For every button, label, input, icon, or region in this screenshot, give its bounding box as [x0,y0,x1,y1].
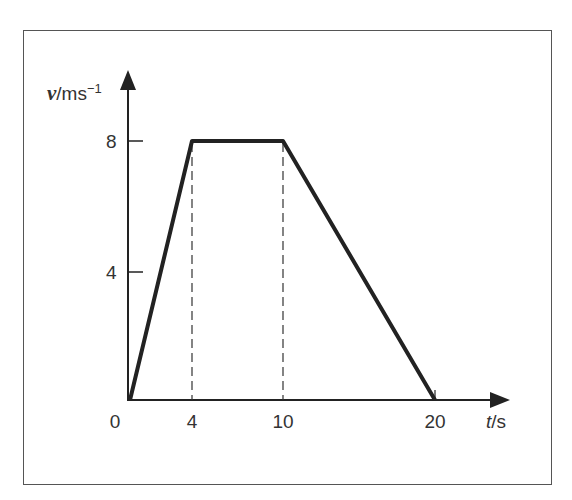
y-tick-label-4: 4 [106,263,117,282]
x-tick-label-20: 20 [424,412,445,431]
y-tick-label-8: 8 [106,132,117,151]
y-axis-label: v/ms−1 [47,82,102,104]
x-tick-label-4: 4 [187,412,198,431]
x-tick-label-10: 10 [272,412,293,431]
x-tick-label-0: 0 [110,412,121,431]
x-axis-label: t/s [486,412,506,431]
